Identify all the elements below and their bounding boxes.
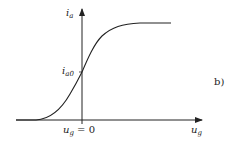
intercept-label: ia0	[62, 65, 74, 78]
x-axis-label: ug	[191, 124, 202, 137]
transfer-characteristic-diagram: ia ia0 ug = 0 ug b)	[0, 0, 239, 144]
y-axis-label: ia	[66, 7, 73, 20]
sigmoid-curve	[16, 23, 171, 120]
panel-label: b)	[214, 76, 224, 87]
origin-label: ug = 0	[63, 124, 95, 137]
